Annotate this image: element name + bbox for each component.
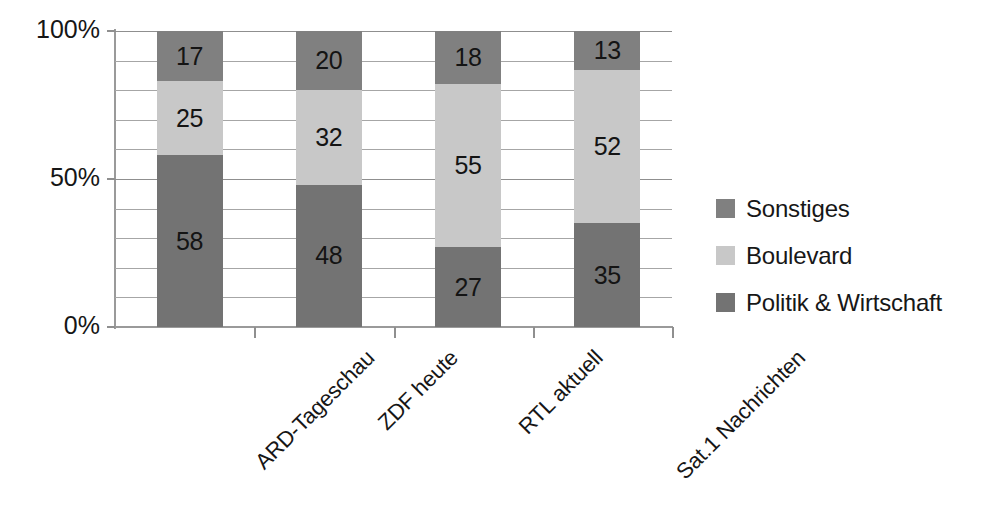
bar-value-label: 35 (594, 263, 621, 288)
bar-segment[interactable]: 27 (435, 247, 501, 327)
bar-value-label: 52 (594, 134, 621, 159)
bar-group[interactable]: 185527 (435, 31, 501, 327)
y-axis-label-100: 100% (5, 15, 100, 44)
y-tick-100 (107, 30, 115, 32)
bar-value-label: 32 (315, 125, 342, 150)
bar-group[interactable]: 203248 (296, 31, 362, 327)
legend-item[interactable]: Boulevard (716, 232, 942, 279)
chart-legend: SonstigesBoulevardPolitik & Wirtschaft (716, 185, 942, 326)
x-axis-label: Sat.1 Nachrichten (672, 345, 812, 485)
legend-swatch-icon (716, 199, 735, 218)
x-tick (254, 327, 256, 338)
bar-value-label: 25 (176, 106, 203, 131)
bar-group[interactable]: 172558 (157, 31, 223, 327)
legend-label: Politik & Wirtschaft (746, 289, 942, 317)
bar-value-label: 17 (176, 44, 203, 69)
bar-value-label: 18 (454, 45, 481, 70)
stacked-bar-chart: 172558203248185527135235 100%50%0%ARD-Ta… (0, 0, 1005, 529)
bar-segment[interactable]: 58 (157, 155, 223, 327)
y-tick-0 (107, 326, 115, 328)
legend-swatch-icon (716, 246, 735, 265)
legend-label: Sonstiges (746, 195, 850, 223)
bar-segment[interactable]: 25 (157, 81, 223, 155)
bar-segment[interactable]: 32 (296, 90, 362, 185)
bar-segment[interactable]: 13 (574, 31, 640, 69)
legend-label: Boulevard (746, 242, 852, 270)
x-axis-label: ZDF heute (373, 345, 464, 436)
x-axis-label: ARD-Tageschau (250, 345, 380, 475)
y-tick-50 (107, 178, 115, 180)
bar-value-label: 13 (594, 38, 621, 63)
bar-value-label: 55 (454, 153, 481, 178)
bar-segment[interactable]: 17 (157, 31, 223, 81)
legend-swatch-icon (716, 293, 735, 312)
y-axis-label-0: 0% (5, 311, 100, 340)
bar-group[interactable]: 135235 (574, 31, 640, 327)
y-axis-label-50: 50% (5, 163, 100, 192)
legend-item[interactable]: Politik & Wirtschaft (716, 279, 942, 326)
legend-item[interactable]: Sonstiges (716, 185, 942, 232)
x-tick (394, 327, 396, 338)
bar-segment[interactable]: 55 (435, 84, 501, 247)
bar-segment[interactable]: 35 (574, 223, 640, 327)
bar-segment[interactable]: 20 (296, 31, 362, 90)
bar-segment[interactable]: 48 (296, 185, 362, 327)
bar-value-label: 58 (176, 229, 203, 254)
x-tick (672, 327, 674, 338)
plot-area: 172558203248185527135235 (115, 31, 672, 327)
bar-segment[interactable]: 52 (574, 70, 640, 224)
bar-segment[interactable]: 18 (435, 31, 501, 84)
bar-value-label: 20 (315, 48, 342, 73)
bar-value-label: 27 (454, 275, 481, 300)
x-axis-label: RTL aktuell (514, 345, 609, 440)
bar-value-label: 48 (315, 243, 342, 268)
x-tick (533, 327, 535, 338)
